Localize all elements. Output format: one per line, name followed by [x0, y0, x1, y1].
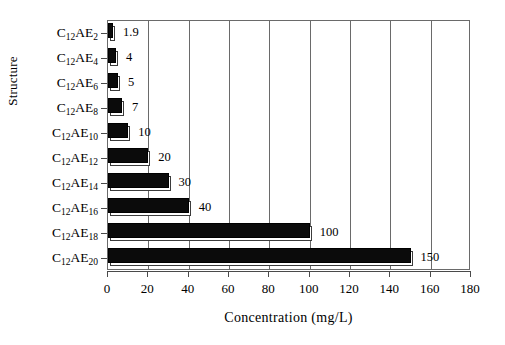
bar-fill	[108, 148, 148, 163]
y-axis-category-label: C12AE8	[57, 95, 107, 120]
bar-value-label: 10	[131, 124, 151, 140]
bar	[108, 146, 152, 171]
bar-fill	[108, 73, 118, 88]
x-axis-tick-label: 20	[127, 281, 167, 297]
y-axis-category-label: C12AE2	[57, 20, 107, 45]
y-axis-category-label: C12AE20	[52, 245, 107, 270]
x-axis-tick-label: 120	[329, 281, 369, 297]
x-axis-tick	[107, 271, 108, 277]
x-axis-tick	[309, 271, 310, 277]
bar-fill	[108, 48, 116, 63]
bar-value-label: 40	[192, 199, 212, 215]
bar-value-label: 100	[313, 224, 339, 240]
bar-value-label: 7	[125, 99, 138, 115]
y-axis-category-label: C12AE4	[57, 45, 107, 70]
bar	[108, 196, 193, 221]
bar	[108, 96, 126, 121]
bar-fill	[108, 173, 169, 188]
x-axis-tick-label: 80	[248, 281, 288, 297]
gridline	[350, 21, 351, 269]
x-axis-tick	[228, 271, 229, 277]
gridline	[390, 21, 391, 269]
bar	[108, 221, 314, 246]
bar-fill	[108, 98, 122, 113]
x-axis-tick	[470, 271, 471, 277]
x-axis-tick	[147, 271, 148, 277]
bar-fill	[108, 23, 113, 38]
x-axis-tick-label: 180	[450, 281, 490, 297]
x-axis-tick	[268, 271, 269, 277]
x-axis-tick-label: 160	[410, 281, 450, 297]
x-axis-tick-label: 140	[369, 281, 409, 297]
y-axis-category-label: C12AE10	[52, 120, 107, 145]
x-axis-tick-label: 100	[289, 281, 329, 297]
bar-fill	[108, 123, 128, 138]
bar-fill	[108, 223, 310, 238]
bar-value-label: 1.9	[116, 24, 139, 40]
bar-value-label: 30	[172, 174, 192, 190]
plot-area	[107, 20, 470, 270]
bar-chart-figure: Structure C12AE2C12AE4C12AE6C12AE8C12AE1…	[0, 0, 505, 345]
gridline	[431, 21, 432, 269]
x-axis-tick	[430, 271, 431, 277]
y-axis-category-label: C12AE6	[57, 70, 107, 95]
x-axis-title: Concentration (mg/L)	[107, 310, 470, 326]
bar-value-label: 4	[119, 49, 132, 65]
x-axis-tick-label: 60	[208, 281, 248, 297]
x-axis-tick-label: 40	[168, 281, 208, 297]
bar-value-label: 150	[414, 249, 440, 265]
x-axis-line	[107, 271, 470, 272]
y-axis-category-label: C12AE14	[52, 170, 107, 195]
bar	[108, 246, 415, 271]
x-axis-tick	[188, 271, 189, 277]
bar	[108, 121, 132, 146]
y-axis-category-label: C12AE12	[52, 145, 107, 170]
y-axis-category-label: C12AE16	[52, 195, 107, 220]
bar	[108, 71, 122, 96]
bar-value-label: 20	[151, 149, 171, 165]
bar	[108, 171, 173, 196]
bar-fill	[108, 248, 411, 263]
bar-fill	[108, 198, 189, 213]
y-axis-title: Structure	[0, 31, 26, 131]
y-axis-category-label: C12AE18	[52, 220, 107, 245]
x-axis-tick-label: 0	[87, 281, 127, 297]
x-axis-tick	[389, 271, 390, 277]
x-axis-tick	[349, 271, 350, 277]
bar-value-label: 5	[121, 74, 134, 90]
